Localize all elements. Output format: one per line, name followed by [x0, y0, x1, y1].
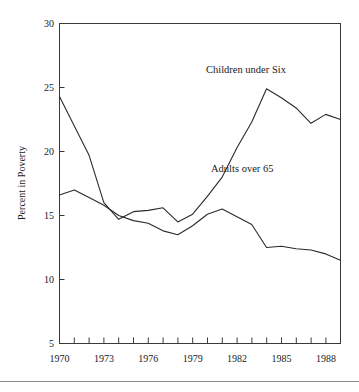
x-tick-label-1970: 1970	[50, 353, 70, 364]
y-tick-group-25: 25	[44, 82, 65, 93]
chart-svg: 30 25 20 15 10 5 Percen	[0, 0, 359, 392]
y-tick-group-15: 15	[44, 210, 65, 221]
y-tick-label-30: 30	[44, 18, 54, 29]
y-tick-label-20: 20	[44, 146, 54, 157]
x-tick-label-1973: 1973	[94, 353, 114, 364]
x-tick-label-1982: 1982	[227, 353, 247, 364]
y-axis-title: Percent in Poverty	[16, 146, 27, 220]
annotation-children-under-six: Children under Six	[206, 64, 287, 75]
y-tick-label-25: 25	[44, 82, 54, 93]
y-tick-label-5: 5	[49, 338, 54, 349]
poverty-line-chart: 30 25 20 15 10 5 Percen	[0, 0, 359, 392]
plot-frame	[60, 24, 341, 344]
y-tick-group-10: 10	[44, 274, 65, 285]
x-tick-label-1988: 1988	[316, 353, 336, 364]
series-line-adults-over-65	[60, 190, 341, 260]
y-tick-group-20: 20	[44, 146, 65, 157]
x-axis-labels: 1970 1973 1976 1979 1982 1985 1988	[50, 353, 336, 364]
series-line-children-under-six	[60, 89, 341, 222]
x-tick-label-1985: 1985	[272, 353, 292, 364]
x-axis-tickmarks	[60, 338, 341, 344]
y-tick-label-15: 15	[44, 210, 54, 221]
annotation-adults-over-65: Adults over 65	[211, 163, 273, 174]
y-tick-label-10: 10	[44, 274, 54, 285]
y-axis: 30 25 20 15 10 5	[44, 18, 65, 349]
x-tick-label-1979: 1979	[183, 353, 203, 364]
y-tick-group-30: 30	[44, 18, 65, 29]
x-tick-label-1976: 1976	[138, 353, 158, 364]
y-tick-group-5: 5	[49, 338, 65, 349]
